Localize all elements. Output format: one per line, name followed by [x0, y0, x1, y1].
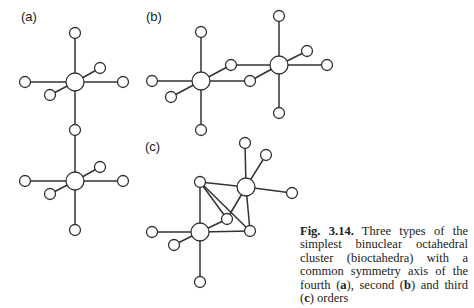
ligand-atom-b [302, 46, 313, 57]
panel-label-a: (a) [21, 9, 37, 24]
metal-atom-b [192, 72, 210, 90]
caption-ref-b: b [404, 278, 411, 292]
ligand-atom-c [287, 188, 298, 199]
ligand-atom-a [20, 77, 31, 88]
ligand-atom-a [118, 77, 129, 88]
ligand-atom-b [274, 11, 285, 22]
ligand-atom-c [195, 177, 206, 188]
ligand-atom-b [196, 125, 207, 136]
ligand-atom-c [245, 226, 256, 237]
panel-label-c: (c) [145, 139, 160, 154]
ligand-atom-c [169, 240, 180, 251]
ligand-atom-b [196, 27, 207, 38]
ligand-atom-c [240, 138, 251, 149]
ligand-atom-c [147, 227, 158, 238]
ligand-atom-c [222, 214, 233, 225]
ligand-atom-a [70, 125, 81, 136]
ligand-atom-b [226, 60, 237, 71]
ligand-atom-a [118, 176, 129, 187]
ligand-atom-b [245, 76, 256, 87]
panel-label-b: (b) [146, 9, 162, 24]
figure-number: Fig. 3.14. [300, 224, 354, 238]
metal-atom-b [270, 56, 288, 74]
ligand-atom-a [95, 162, 106, 173]
ligand-atom-c [195, 277, 206, 288]
atoms-layer [20, 11, 333, 288]
metal-atom-a [66, 172, 84, 190]
ligand-atom-a [95, 63, 106, 74]
metal-atom-a [66, 73, 84, 91]
metal-atom-c [191, 223, 209, 241]
ligand-atom-a [70, 28, 81, 39]
ligand-atom-b [322, 60, 333, 71]
ligand-atom-c [261, 150, 272, 161]
caption-text: ) orders [310, 291, 349, 305]
ligand-atom-b [274, 108, 285, 119]
ligand-atom-a [45, 189, 56, 200]
bond-line-c [200, 182, 227, 219]
caption-text: ), second ( [347, 278, 404, 292]
ligand-atom-a [45, 90, 56, 101]
ligand-atom-b [166, 92, 177, 103]
figure-caption: Fig. 3.14. Three types of the simplest b… [300, 225, 468, 305]
ligand-atom-b [147, 76, 158, 87]
ligand-atom-a [70, 225, 81, 236]
ligand-atom-a [20, 176, 31, 187]
metal-atom-c [237, 178, 255, 196]
